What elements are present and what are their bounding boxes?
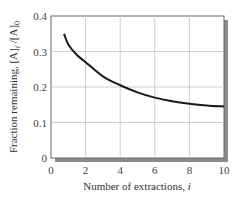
x-tick-label: 4: [117, 164, 123, 176]
y-tick-label: 0.2: [33, 81, 47, 93]
x-axis-label: Number of extractions, i: [83, 180, 191, 192]
y-axis-label: Fraction remaining, [A]i /[A]0: [7, 21, 22, 153]
x-tick-label: 8: [187, 164, 193, 176]
x-tick-label: 0: [48, 164, 54, 176]
y-axis-ticks: 00.10.20.30.4: [33, 10, 47, 164]
x-axis-ticks: 0246810: [48, 164, 230, 176]
y-tick-label: 0.3: [33, 46, 47, 58]
y-tick-label: 0: [42, 152, 48, 164]
chart: 00.10.20.30.4 0246810 Number of extracti…: [0, 0, 240, 197]
y-tick-label: 0.1: [33, 117, 47, 129]
x-tick-label: 10: [219, 164, 231, 176]
x-tick-label: 6: [152, 164, 158, 176]
y-tick-label: 0.4: [33, 10, 47, 22]
x-tick-label: 2: [83, 164, 89, 176]
